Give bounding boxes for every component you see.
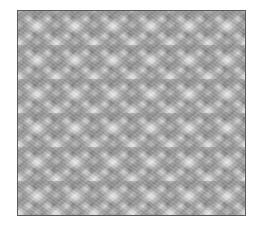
image-canvas: [0, 0, 259, 231]
fabric-texture-photo: [17, 10, 246, 216]
fiber-striation-layer: [18, 11, 245, 215]
